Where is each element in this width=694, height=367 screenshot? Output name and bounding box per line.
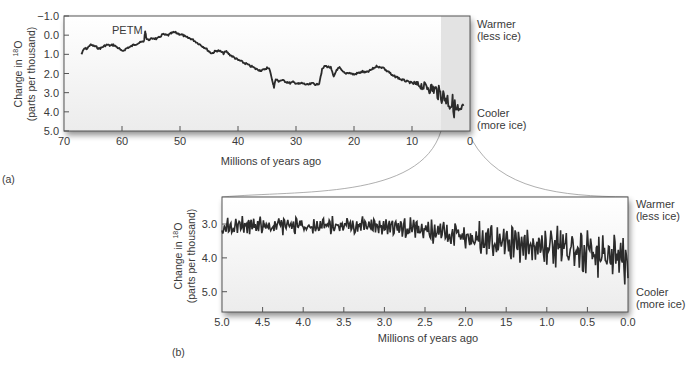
- x-tick-label: 70: [58, 135, 70, 147]
- warmer-label-a: Warmer: [477, 18, 516, 30]
- cooler-label-a: Cooler: [477, 107, 510, 119]
- y-axis-units-b: (parts per thousand): [185, 209, 197, 304]
- cooler-label-b: Cooler: [636, 286, 669, 298]
- x-tick-label: 1.0: [539, 316, 554, 328]
- panel-label-b: (b): [172, 346, 185, 358]
- x-tick-label: 30: [290, 135, 302, 147]
- highlight-region: [441, 16, 470, 131]
- panel-label-a: (a): [2, 173, 15, 185]
- x-tick-label: 10: [406, 135, 418, 147]
- x-tick-label: 4.5: [255, 316, 270, 328]
- panel-a: −1.00.01.02.03.04.05.0 706050403020100 P…: [2, 10, 527, 185]
- x-axis-label-b: Millions of years ago: [378, 332, 478, 344]
- y-axis-label-b: Change in 18O: [172, 223, 184, 290]
- x-tick-label: 5.0: [214, 316, 229, 328]
- more-ice-label-a: (more ice): [477, 119, 527, 131]
- more-ice-label-b: (more ice): [636, 298, 686, 310]
- y-tick-label: 2.0: [44, 68, 59, 80]
- x-tick-label: 50: [174, 135, 186, 147]
- x-tick-label: 0: [467, 135, 473, 147]
- y-tick-label: −1.0: [37, 10, 59, 22]
- x-tick-label: 2.5: [417, 316, 432, 328]
- x-tick-label: 3.5: [336, 316, 351, 328]
- y-tick-label: 5.0: [202, 286, 217, 298]
- x-tick-label: 40: [232, 135, 244, 147]
- x-tick-label: 0.5: [580, 316, 595, 328]
- petm-annotation: PETM: [112, 24, 143, 36]
- y-tick-label: 3.0: [202, 218, 217, 230]
- x-axis-label-a: Millions of years ago: [221, 155, 321, 167]
- x-tick-label: 15: [500, 316, 512, 328]
- less-ice-label-b: (less ice): [636, 210, 680, 222]
- y-axis-label-a: Change in 18O: [12, 41, 24, 108]
- x-tick-label: 60: [116, 135, 128, 147]
- figure: −1.00.01.02.03.04.05.0 706050403020100 P…: [0, 0, 694, 367]
- warmer-label-b: Warmer: [636, 198, 675, 210]
- y-tick-label: 5.0: [44, 125, 59, 137]
- x-tick-label: 4.0: [296, 316, 311, 328]
- y-axis-units-a: (parts per thousand): [25, 27, 37, 122]
- y-tick-label: 0.0: [44, 29, 59, 41]
- panel-b: 3.04.05.0 5.04.54.03.53.02.52.0151.00.50…: [172, 197, 686, 358]
- x-tick-label: 20: [348, 135, 360, 147]
- x-tick-label: 0.0: [620, 316, 635, 328]
- y-tick-label: 4.0: [44, 106, 59, 118]
- x-tick-label: 2.0: [458, 316, 473, 328]
- y-tick-label: 3.0: [44, 87, 59, 99]
- x-tick-label: 3.0: [377, 316, 392, 328]
- less-ice-label-a: (less ice): [477, 30, 521, 42]
- y-tick-label: 4.0: [202, 252, 217, 264]
- y-tick-label: 1.0: [44, 48, 59, 60]
